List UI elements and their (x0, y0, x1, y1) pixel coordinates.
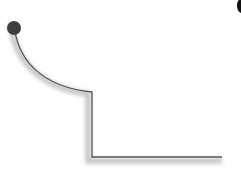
diagram-canvas (0, 0, 241, 171)
edge-mark (237, 0, 241, 13)
outline-path (14, 22, 222, 157)
outline-shadow (11, 24, 222, 161)
anchor-dot (7, 21, 21, 35)
